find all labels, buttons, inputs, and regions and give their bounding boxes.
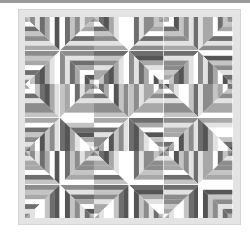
quilt-block (164, 118, 199, 152)
quilt-block (25, 84, 60, 118)
quilt-block (25, 118, 60, 152)
quilt-block (94, 118, 129, 152)
quilt-block (94, 185, 129, 219)
quilt-block (164, 17, 199, 51)
quilt-block (94, 17, 129, 51)
quilt-block (94, 151, 129, 185)
quilt-block (129, 151, 164, 185)
quilt-block (94, 84, 129, 118)
quilt-block (164, 84, 199, 118)
quilt-block (198, 51, 233, 85)
quilt-block (198, 151, 233, 185)
quilt-block (60, 51, 95, 85)
quilt-block (60, 17, 95, 51)
quilt-block (60, 151, 95, 185)
top-bar (0, 0, 250, 3)
quilt-block (60, 118, 95, 152)
quilt-block (164, 51, 199, 85)
quilt-block (60, 84, 95, 118)
quilt-block (94, 51, 129, 85)
quilt-block (164, 185, 199, 219)
quilt-block (25, 51, 60, 85)
quilt-block (198, 185, 233, 219)
quilt-block (129, 185, 164, 219)
quilt-block (25, 17, 60, 51)
quilt-block (60, 185, 95, 219)
quilt-block (198, 118, 233, 152)
quilt-block (129, 51, 164, 85)
quilt-block (164, 151, 199, 185)
quilt-block (198, 84, 233, 118)
quilt-image (25, 17, 233, 218)
quilt-block (25, 185, 60, 219)
quilt-block (129, 17, 164, 51)
quilt-block (129, 84, 164, 118)
quilt-block (129, 118, 164, 152)
quilt-block (25, 151, 60, 185)
quilt-block (198, 17, 233, 51)
